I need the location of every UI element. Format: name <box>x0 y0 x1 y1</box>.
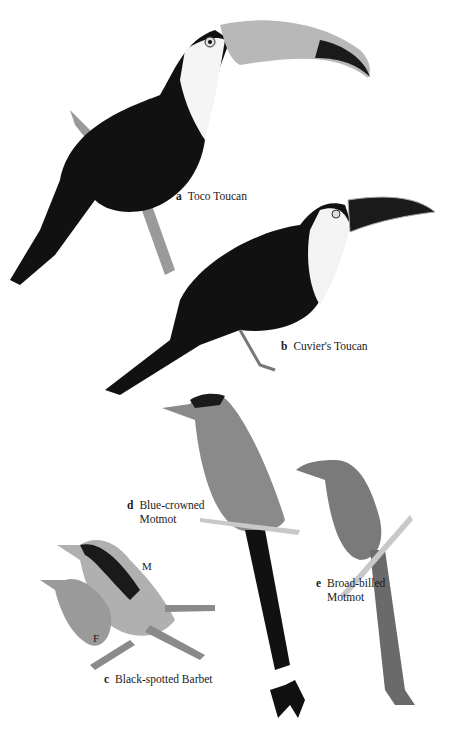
label-name-line-1: Blue-crowned <box>139 499 204 511</box>
label-black-spotted-barbet: cBlack-spotted Barbet <box>104 672 213 686</box>
label-name-line-2: Motmot <box>327 591 364 603</box>
black-spotted-barbet-illustration <box>40 540 215 670</box>
barbet-male-label: M <box>142 560 152 572</box>
label-blue-crowned-motmot: dBlue-crownedMotmot <box>127 498 205 526</box>
label-name-line-2: Motmot <box>139 513 176 525</box>
label-name: Black-spotted Barbet <box>115 673 212 685</box>
label-letter: a <box>176 190 182 202</box>
label-name: Toco Toucan <box>188 190 247 202</box>
label-letter: e <box>316 577 321 589</box>
label-name: Cuvier's Toucan <box>293 340 367 352</box>
label-name-line-1: Broad-billed <box>327 577 385 589</box>
label-toco-toucan: aToco Toucan <box>176 189 247 203</box>
barbet-female-label: F <box>93 632 99 644</box>
bird-illustrations <box>0 0 455 733</box>
blue-crowned-motmot-illustration <box>162 394 305 718</box>
label-broad-billed-motmot: eBroad-billedMotmot <box>316 576 385 604</box>
label-letter: d <box>127 499 133 511</box>
label-letter: b <box>281 340 287 352</box>
bird-illustration-plate: aToco Toucan bCuvier's Toucan dBlue-crow… <box>0 0 455 733</box>
label-cuviers-toucan: bCuvier's Toucan <box>281 339 368 353</box>
label-letter: c <box>104 673 109 685</box>
